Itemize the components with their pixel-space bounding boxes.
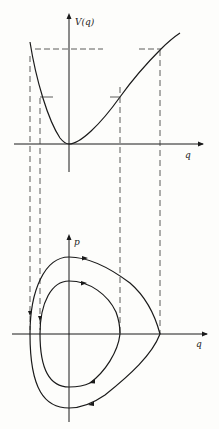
phase-plot: p q [12, 234, 208, 422]
v-axis-arrow [67, 13, 72, 19]
outer-orbit [30, 257, 160, 408]
q-axis-label-top: q [185, 150, 191, 160]
p-axis-label: p [74, 237, 80, 247]
q-axis-arrow-top [198, 142, 204, 147]
q-axis-label-bottom: q [196, 339, 202, 349]
inner-orbit-arrow-bottom [89, 379, 95, 384]
potential-plot: V(q) q [14, 13, 204, 172]
p-axis-arrow [67, 234, 72, 240]
q-axis-arrow-bottom [202, 332, 208, 337]
v-axis-label: V(q) [75, 17, 95, 27]
potential-phase-diagram: V(q) q p q [0, 0, 219, 429]
turning-point-guides [30, 50, 160, 334]
potential-curve [30, 33, 180, 144]
inner-orbit-arrow-top [81, 281, 87, 286]
